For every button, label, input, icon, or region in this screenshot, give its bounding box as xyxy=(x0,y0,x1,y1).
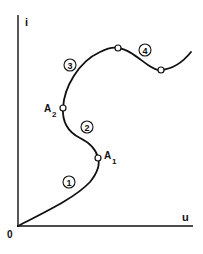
valley-marker xyxy=(158,67,164,73)
point-a2-label: A 2 xyxy=(44,103,57,119)
point-a1-base: A xyxy=(104,150,111,161)
characteristic-curve xyxy=(18,48,191,226)
point-a1-label: A 1 xyxy=(104,150,117,166)
point-a1-sub: 1 xyxy=(112,157,117,166)
peak-marker xyxy=(115,45,121,51)
segment-2-label: 2 xyxy=(81,121,93,133)
segment-2-number: 2 xyxy=(84,123,89,133)
segment-1-number: 1 xyxy=(66,178,71,188)
point-a1-marker xyxy=(95,155,101,161)
segment-4-label: 4 xyxy=(139,44,151,56)
iu-characteristic-diagram: i u 0 A 1 A 2 1 2 3 4 xyxy=(0,0,203,254)
segment-3-number: 3 xyxy=(67,61,72,71)
segment-4-number: 4 xyxy=(142,46,147,56)
point-a2-base: A xyxy=(44,103,51,114)
y-axis-label: i xyxy=(25,16,28,28)
segment-3-label: 3 xyxy=(64,59,76,71)
origin-label: 0 xyxy=(7,229,13,240)
point-a2-sub: 2 xyxy=(52,110,57,119)
x-axis-label: u xyxy=(182,211,189,223)
segment-1-label: 1 xyxy=(63,176,75,188)
point-a2-marker xyxy=(60,105,66,111)
